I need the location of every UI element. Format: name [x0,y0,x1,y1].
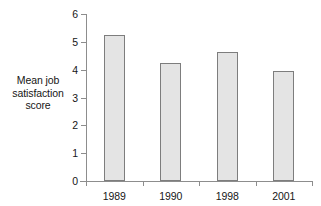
y-axis-line [86,14,87,181]
y-tick-label-0: 0 [72,176,78,187]
x-tick-2 [199,181,200,186]
x-label-1990: 1990 [159,190,182,202]
y-axis-title-line-3: score [2,99,74,112]
y-tick-5: 5 [81,42,86,43]
y-tick-1: 1 [81,153,86,154]
y-tick-2: 2 [81,125,86,126]
bar-chart: Mean job satisfaction score 0 1 2 3 4 5 … [0,0,321,206]
y-axis-title-line-1: Mean job [2,74,74,87]
plot-area: 0 1 2 3 4 5 6 1989 1990 [86,14,312,181]
y-tick-label-2: 2 [72,120,78,131]
x-label-2001: 2001 [272,190,295,202]
y-axis-title: Mean job satisfaction score [2,74,74,112]
x-axis-line [80,181,312,182]
y-tick-6: 6 [81,14,86,15]
y-axis-title-line-2: satisfaction [2,87,74,100]
y-tick-3: 3 [81,98,86,99]
bar-2001 [273,71,294,181]
y-tick-label-3: 3 [72,92,78,103]
bar-1989 [104,35,125,181]
y-tick-label-4: 4 [72,64,78,75]
x-tick-4 [312,181,313,186]
y-tick-4: 4 [81,70,86,71]
bar-1990 [160,63,181,181]
bar-1998 [217,52,238,181]
x-tick-1 [143,181,144,186]
y-tick-label-5: 5 [72,37,78,48]
y-tick-label-1: 1 [72,148,78,159]
x-label-1998: 1998 [216,190,239,202]
x-label-1989: 1989 [103,190,126,202]
x-tick-0 [86,181,87,186]
x-tick-3 [256,181,257,186]
y-tick-label-6: 6 [72,9,78,20]
